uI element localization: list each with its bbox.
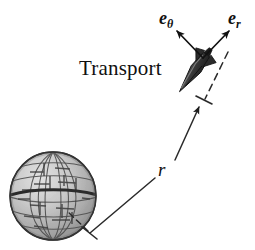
radius-line-upper xyxy=(175,107,199,160)
radius-label: r xyxy=(158,160,165,179)
e-r-base: e xyxy=(228,8,236,28)
unit-vector-e-r-label: er xyxy=(228,9,241,30)
e-theta-base: e xyxy=(159,8,167,28)
physics-diagram-figure: Transport r eθ er xyxy=(0,0,255,250)
radius-line-lower xyxy=(90,178,155,233)
unit-vector-e-theta-label: eθ xyxy=(159,9,173,30)
radius-tick-top xyxy=(196,96,212,104)
craft-body xyxy=(175,51,211,95)
transport-label: Transport xyxy=(79,58,162,79)
unit-vector-e-theta-arrow xyxy=(177,31,203,58)
diagram-canvas xyxy=(0,0,255,250)
unit-vector-e-r-arrow xyxy=(203,31,229,58)
e-theta-subscript: θ xyxy=(167,17,173,31)
e-r-subscript: r xyxy=(236,17,241,31)
